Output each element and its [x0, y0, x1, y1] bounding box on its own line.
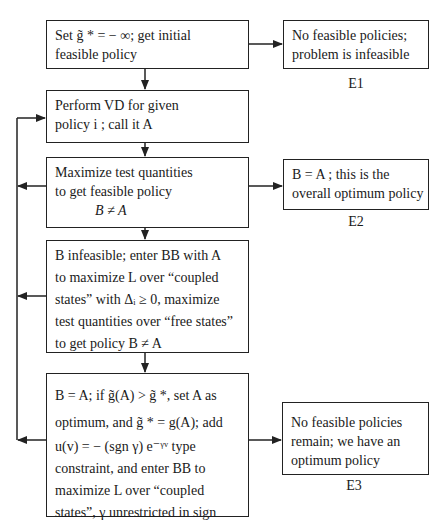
- e2-line-2: overall optimum policy: [292, 184, 420, 203]
- step5-line-4: constraint, and enter BB to: [55, 458, 240, 480]
- e2-line-1: B = A ; this is the: [292, 165, 420, 184]
- step5-line-3: u(v) = − (sgn γ) e⁻ᵞᵛ type: [55, 436, 240, 458]
- e1-line-1: No feasible policies;: [292, 26, 420, 45]
- step5-line-2: optimum, and g̃ * = g(A); add: [55, 409, 240, 436]
- step1-line-1: Set g̃ * = − ∞; get initial: [55, 26, 240, 45]
- step5-line-1: B = A; if g̃(A) > g̃ *, set A as: [55, 382, 240, 409]
- e3-line-1: No feasible policies: [291, 413, 420, 432]
- step3-maximize-box: Maximize test quantities to get feasible…: [46, 157, 249, 228]
- step1-line-2: feasible policy: [55, 45, 240, 64]
- e3-line-2: remain; we have an: [291, 432, 420, 451]
- step2-line-1: Perform VD for given: [55, 96, 240, 115]
- step3-line-1: Maximize test quantities: [55, 163, 240, 182]
- step2-line-2: policy i ; call it A: [55, 115, 240, 134]
- step4-line-5: to get policy B ≠ A: [55, 333, 240, 355]
- step5-line-6: states”, γ unrestricted in sign: [55, 502, 240, 524]
- step2-vd-box: Perform VD for given policy i ; call it …: [46, 90, 249, 143]
- step4-bb-box: B infeasible; enter BB with A to maximiz…: [46, 240, 249, 353]
- e3-line-3: optimum policy: [291, 451, 420, 470]
- step3-line-3: B ≠ A: [55, 201, 240, 220]
- e3-label: E3: [334, 478, 374, 494]
- step4-line-3: states” with Δᵢ ≥ 0, maximize: [55, 289, 240, 311]
- e1-line-2: problem is infeasible: [292, 45, 420, 64]
- step5-optimum-box: B = A; if g̃(A) > g̃ *, set A as optimum…: [46, 373, 249, 517]
- e3-final-box: No feasible policies remain; we have an …: [282, 402, 429, 475]
- step3-line-2: to get feasible policy: [55, 182, 240, 201]
- e1-label: E1: [336, 76, 376, 92]
- step5-line-5: maximize L over “coupled: [55, 480, 240, 502]
- step4-line-4: test quantities over “free states”: [55, 311, 240, 333]
- step4-line-1: B infeasible; enter BB with A: [55, 245, 240, 267]
- e2-label: E2: [336, 214, 376, 230]
- step4-line-2: to maximize L over “coupled: [55, 267, 240, 289]
- step1-init-box: Set g̃ * = − ∞; get initial feasible pol…: [46, 20, 249, 69]
- e1-infeasible-box: No feasible policies; problem is infeasi…: [283, 20, 429, 69]
- e2-optimum-box: B = A ; this is the overall optimum poli…: [283, 159, 429, 210]
